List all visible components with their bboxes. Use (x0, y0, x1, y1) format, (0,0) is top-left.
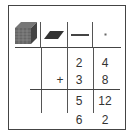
unit-icon (104, 33, 107, 36)
result-ones: 2 (95, 113, 115, 127)
addend1-ones: 4 (95, 56, 115, 70)
partial-ones: 12 (95, 94, 115, 108)
rod-icon (71, 33, 89, 37)
cube-icon (15, 22, 37, 44)
column-divider (93, 47, 94, 113)
header-divider (67, 22, 68, 47)
plus-sign: + (50, 73, 70, 87)
sum-line (30, 89, 120, 90)
flat-icon (44, 31, 64, 39)
header-divider (92, 22, 93, 47)
column-divider (41, 47, 42, 113)
addend2-tens: 3 (69, 73, 89, 87)
addend2-ones: 8 (95, 73, 115, 87)
partial-tens: 5 (69, 94, 89, 108)
header-separator (15, 47, 121, 48)
addend1-tens: 2 (69, 56, 89, 70)
result-tens: 6 (69, 113, 89, 127)
header-divider (40, 22, 41, 47)
